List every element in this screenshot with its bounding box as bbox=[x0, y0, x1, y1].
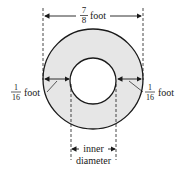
outer-denominator: 8 bbox=[82, 15, 87, 25]
inner-diameter-dimension: inner diameter bbox=[72, 143, 115, 166]
inner-label-line1: inner bbox=[83, 143, 104, 154]
left-denominator: 16 bbox=[12, 93, 20, 102]
right-denominator: 16 bbox=[146, 93, 154, 102]
right-numerator: 1 bbox=[148, 83, 152, 92]
outer-diameter-dimension: 7 8 foot bbox=[45, 5, 141, 25]
inner-label-line2: diameter bbox=[76, 155, 112, 166]
left-numerator: 1 bbox=[14, 83, 18, 92]
outer-unit: foot bbox=[90, 10, 106, 21]
washer-diagram: 7 8 foot 1 16 foot 1 16 foot inner diame… bbox=[0, 0, 186, 176]
left-unit: foot bbox=[24, 87, 40, 98]
inner-circle bbox=[70, 58, 116, 104]
right-unit: foot bbox=[158, 87, 174, 98]
outer-numerator: 7 bbox=[82, 5, 87, 15]
